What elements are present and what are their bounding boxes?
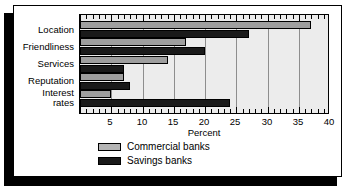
- axis-tick-minor: [118, 109, 119, 113]
- axis-tick-minor: [86, 15, 87, 19]
- axis-tick-minor: [93, 15, 94, 19]
- category-label: Interest rates: [42, 88, 74, 108]
- axis-tick-minor: [324, 15, 325, 19]
- axis-tick-minor: [280, 15, 281, 19]
- axis-tick-minor: [118, 15, 119, 19]
- axis-tick-minor: [293, 109, 294, 113]
- axis-tick-minor: [180, 109, 181, 113]
- x-tick-label: 20: [199, 116, 210, 127]
- bar-savings: [80, 65, 124, 73]
- axis-tick-minor: [130, 15, 131, 19]
- axis-tick-minor: [211, 109, 212, 113]
- axis-tick-minor: [136, 109, 137, 113]
- axis-tick-minor: [199, 15, 200, 19]
- axis-tick-major: [80, 107, 81, 113]
- axis-tick-major: [174, 107, 175, 113]
- axis-tick-minor: [255, 15, 256, 19]
- axis-tick-minor: [249, 15, 250, 19]
- axis-tick-minor: [224, 109, 225, 113]
- axis-tick-minor: [274, 109, 275, 113]
- axis-tick-minor: [261, 15, 262, 19]
- bar-savings: [80, 82, 130, 90]
- chart-card: LocationFriendlinessServicesReputationIn…: [13, 5, 342, 177]
- axis-tick-minor: [193, 109, 194, 113]
- x-axis-title: Percent: [79, 127, 329, 138]
- bar-commercial: [80, 90, 111, 98]
- axis-tick-minor: [255, 109, 256, 113]
- axis-tick-minor: [149, 109, 150, 113]
- legend-swatch-commercial: [98, 143, 121, 151]
- bar-group: [80, 21, 328, 107]
- plot-bottom-rule: [80, 113, 328, 114]
- bottom-tick-band: [80, 107, 328, 113]
- axis-tick-minor: [99, 109, 100, 113]
- axis-tick-minor: [243, 15, 244, 19]
- x-tick-label: 40: [324, 116, 335, 127]
- axis-tick-major: [268, 107, 269, 113]
- axis-tick-major: [236, 107, 237, 113]
- axis-tick-minor: [186, 109, 187, 113]
- category-label: Services: [38, 59, 74, 69]
- x-tick-label: 5: [107, 116, 112, 127]
- category-label: Reputation: [28, 76, 74, 86]
- axis-tick-minor: [249, 109, 250, 113]
- axis-tick-minor: [86, 109, 87, 113]
- axis-tick-minor: [136, 15, 137, 19]
- axis-tick-minor: [230, 109, 231, 113]
- axis-tick-minor: [286, 109, 287, 113]
- plot-area: [79, 14, 329, 114]
- axis-tick-minor: [186, 15, 187, 19]
- category-label: Friendliness: [23, 42, 74, 52]
- axis-tick-minor: [161, 15, 162, 19]
- axis-tick-minor: [93, 109, 94, 113]
- axis-tick-minor: [124, 109, 125, 113]
- axis-tick-minor: [199, 109, 200, 113]
- axis-tick-minor: [155, 15, 156, 19]
- axis-tick-minor: [218, 15, 219, 19]
- legend-item: Savings banks: [98, 154, 210, 167]
- bar-savings: [80, 30, 249, 38]
- chart-legend: Commercial banksSavings banks: [98, 140, 210, 168]
- axis-tick-minor: [99, 15, 100, 19]
- axis-tick-minor: [230, 15, 231, 19]
- bar-commercial: [80, 38, 186, 46]
- axis-tick-major: [205, 107, 206, 113]
- axis-tick-minor: [311, 109, 312, 113]
- axis-tick-major: [299, 107, 300, 113]
- axis-tick-minor: [168, 109, 169, 113]
- axis-tick-minor: [224, 15, 225, 19]
- axis-tick-minor: [274, 15, 275, 19]
- bar-savings: [80, 99, 230, 107]
- axis-tick-minor: [311, 15, 312, 19]
- axis-tick-minor: [193, 15, 194, 19]
- axis-tick-minor: [318, 15, 319, 19]
- x-tick-label: 30: [262, 116, 273, 127]
- axis-tick-minor: [280, 109, 281, 113]
- legend-swatch-savings: [98, 157, 121, 165]
- axis-tick-minor: [218, 109, 219, 113]
- axis-tick-minor: [161, 109, 162, 113]
- axis-tick-minor: [324, 109, 325, 113]
- axis-tick-minor: [155, 109, 156, 113]
- bar-savings: [80, 47, 205, 55]
- axis-tick-minor: [305, 15, 306, 19]
- axis-tick-minor: [180, 15, 181, 19]
- chart-figure: LocationFriendlinessServicesReputationIn…: [0, 0, 344, 188]
- axis-tick-minor: [286, 15, 287, 19]
- axis-tick-minor: [305, 109, 306, 113]
- axis-tick-minor: [318, 109, 319, 113]
- axis-tick-major: [111, 107, 112, 113]
- bar-commercial: [80, 56, 168, 64]
- legend-label: Savings banks: [127, 155, 192, 166]
- axis-tick-minor: [168, 15, 169, 19]
- axis-tick-minor: [105, 109, 106, 113]
- legend-item: Commercial banks: [98, 140, 210, 153]
- axis-tick-minor: [261, 109, 262, 113]
- x-tick-label: 15: [168, 116, 179, 127]
- axis-tick-minor: [293, 15, 294, 19]
- legend-label: Commercial banks: [127, 141, 210, 152]
- bar-commercial: [80, 73, 124, 81]
- category-label: Location: [38, 25, 74, 35]
- axis-tick-minor: [130, 109, 131, 113]
- axis-tick-minor: [149, 15, 150, 19]
